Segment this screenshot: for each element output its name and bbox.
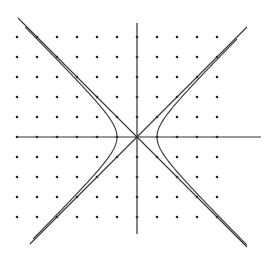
grid-dot [76, 56, 79, 59]
grid-dot [36, 176, 39, 179]
grid-dot [176, 216, 179, 219]
grid-dot [196, 216, 199, 219]
grid-dot [216, 76, 219, 79]
grid-dot [76, 116, 79, 119]
grid-dot [76, 216, 79, 219]
grid-dot [196, 36, 199, 39]
grid-dot [36, 216, 39, 219]
grid-dot [156, 36, 159, 39]
grid-dot [216, 116, 219, 119]
grid-dot [116, 76, 119, 79]
grid-dot [36, 196, 39, 199]
grid-dot [96, 196, 99, 199]
grid-dot [176, 36, 179, 39]
grid-dot [196, 56, 199, 59]
grid-dot [76, 156, 79, 159]
grid-dot [96, 156, 99, 159]
grid-dot [36, 56, 39, 59]
grid-dot [76, 176, 79, 179]
grid-dot [176, 116, 179, 119]
grid-dot [176, 56, 179, 59]
hyperbola-diagram: Hyperbola x^2 - y^2 = 1 with asymptotes … [0, 0, 272, 278]
grid-dot [156, 56, 159, 59]
grid-dot [16, 196, 19, 199]
grid-dot [96, 56, 99, 59]
grid-dot [116, 36, 119, 39]
grid-dot [216, 96, 219, 99]
grid-dot [76, 36, 79, 39]
grid-dot [16, 76, 19, 79]
grid-dot [196, 156, 199, 159]
grid-dot [16, 56, 19, 59]
grid-dot [116, 216, 119, 219]
curves [18, 18, 247, 247]
grid-dot [56, 116, 59, 119]
grid-dot [116, 96, 119, 99]
grid-dot [36, 156, 39, 159]
grid-dot [56, 156, 59, 159]
grid-dot [16, 216, 19, 219]
grid-dot [16, 156, 19, 159]
grid-dot [216, 156, 219, 159]
grid-dot [96, 116, 99, 119]
grid-dot [156, 216, 159, 219]
grid-dot [56, 196, 59, 199]
grid-dot [196, 96, 199, 99]
grid-dot [216, 176, 219, 179]
axes [17, 23, 261, 234]
grid-dot [56, 176, 59, 179]
grid-dot [96, 76, 99, 79]
grid-dot [116, 56, 119, 59]
grid-dot [96, 36, 99, 39]
grid-dot [216, 196, 219, 199]
grid-dot [16, 176, 19, 179]
hyperbola-left-branch [25, 27, 117, 239]
grid-dot [196, 176, 199, 179]
grid-dot [76, 96, 79, 99]
grid-dot [156, 76, 159, 79]
grid-dot [16, 116, 19, 119]
grid-dots [16, 36, 219, 219]
grid-dot [196, 116, 199, 119]
grid-dot [36, 96, 39, 99]
grid-dot [116, 196, 119, 199]
grid-dot [56, 96, 59, 99]
grid-dot [216, 36, 219, 39]
plot-canvas [0, 0, 272, 278]
grid-dot [156, 176, 159, 179]
hyperbola-right-branch [157, 39, 247, 245]
grid-dot [176, 196, 179, 199]
grid-dot [156, 196, 159, 199]
grid-dot [56, 36, 59, 39]
grid-dot [16, 36, 19, 39]
grid-dot [56, 76, 59, 79]
grid-dot [156, 96, 159, 99]
grid-dot [116, 176, 119, 179]
grid-dot [176, 156, 179, 159]
grid-dot [16, 96, 19, 99]
asymptote-negative [18, 18, 247, 247]
grid-dot [36, 76, 39, 79]
grid-dot [96, 216, 99, 219]
grid-dot [176, 76, 179, 79]
grid-dot [36, 116, 39, 119]
